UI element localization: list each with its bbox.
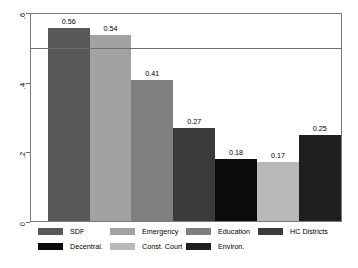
legend-item-const-court: Const. Court (110, 241, 182, 252)
legend-swatch-icon (258, 228, 283, 236)
legend-label: HC Districts (290, 228, 328, 236)
legend-label: SDF (70, 228, 84, 236)
y-axis-tick-label: .2 (19, 152, 27, 158)
bar-rect (90, 35, 132, 221)
bar-column: 0.17 (257, 14, 299, 221)
bar-rect (131, 80, 173, 221)
bar-value-label: 0.41 (131, 70, 173, 78)
bar-column: 0.54 (90, 14, 132, 221)
bar-rect (257, 162, 299, 221)
bar-chart-figure: 0 .2 .4 .6 0.56 0.54 0.41 0.27 (0, 0, 358, 268)
bar-value-label: 0.27 (173, 118, 215, 126)
legend-swatch-icon (186, 243, 211, 251)
reference-line (31, 48, 341, 49)
bar-rect (173, 128, 215, 221)
bar-value-label: 0.25 (299, 125, 341, 133)
bar-rect (299, 135, 341, 221)
y-axis-tick-label: .6 (19, 13, 27, 19)
bar-column: 0.27 (173, 14, 215, 221)
bar-column: 0.25 (299, 14, 341, 221)
chart-legend: SDF Emergency Education HC Districts Dec… (30, 226, 342, 258)
legend-swatch-icon (38, 243, 63, 251)
bar-value-label: 0.54 (90, 25, 132, 33)
y-axis-tick-label: .4 (19, 83, 27, 89)
bar-value-label: 0.18 (215, 149, 257, 157)
legend-label: Emergency (142, 228, 178, 236)
y-axis-tick-label: 0 (19, 222, 27, 226)
legend-swatch-icon (110, 228, 135, 236)
legend-row: SDF Emergency Education HC Districts (30, 226, 342, 237)
legend-label: Decentral. (70, 243, 103, 251)
legend-row: Decentral. Const. Court Environ. (30, 241, 342, 252)
bar-rect (215, 159, 257, 221)
bar-value-label: 0.17 (257, 152, 299, 160)
bar-column: 0.41 (131, 14, 173, 221)
legend-item-education: Education (186, 226, 250, 237)
bar-value-label: 0.56 (48, 18, 90, 26)
legend-item-emergency: Emergency (110, 226, 178, 237)
legend-label: Environ. (218, 243, 244, 251)
legend-item-sdf: SDF (38, 226, 84, 237)
legend-swatch-icon (38, 228, 63, 236)
legend-item-decentral: Decentral. (38, 241, 103, 252)
legend-label: Const. Court (142, 243, 182, 251)
bars-layer: 0.56 0.54 0.41 0.27 0.18 0.17 (31, 14, 341, 221)
legend-item-environ: Environ. (186, 241, 244, 252)
bar-column: 0.18 (215, 14, 257, 221)
legend-item-hc-districts: HC Districts (258, 226, 328, 237)
legend-label: Education (218, 228, 250, 236)
legend-swatch-icon (186, 228, 211, 236)
bar-rect (48, 28, 90, 221)
bar-column: 0.56 (48, 14, 90, 221)
plot-area: 0.56 0.54 0.41 0.27 0.18 0.17 (30, 13, 342, 222)
legend-swatch-icon (110, 243, 135, 251)
y-axis: 0 .2 .4 .6 (0, 0, 30, 268)
